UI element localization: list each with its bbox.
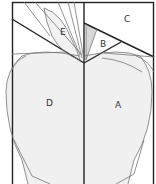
piece-label-e: E <box>60 27 66 37</box>
piece-label-d: D <box>46 98 53 108</box>
apple-quilt-diagram: C E B D A <box>0 0 156 184</box>
apple-body <box>6 52 152 184</box>
piece-label-a: A <box>115 100 122 110</box>
piece-label-c: C <box>124 14 130 24</box>
piece-label-b: B <box>100 39 106 49</box>
